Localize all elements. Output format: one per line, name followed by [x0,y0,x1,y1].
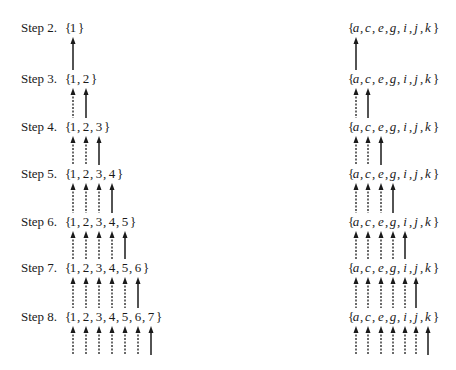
arrowhead-icon [84,326,89,333]
arrowhead-icon [414,326,419,333]
arrowhead-icon [366,326,371,333]
arrowhead-icon [84,183,89,190]
arrowhead-icon [97,183,102,190]
arrowhead-icon [354,326,359,333]
arrowhead-icon [379,326,384,333]
arrowhead-icon [123,231,128,238]
arrowhead-icon [391,183,396,190]
arrowhead-icon [84,231,89,238]
arrowhead-icon [379,231,384,238]
arrowhead-icon [391,277,396,284]
arrowhead-icon [136,326,141,333]
arrowhead-icon [71,136,76,143]
arrowhead-icon [414,277,419,284]
arrowhead-icon [354,88,359,95]
arrowhead-icon [379,277,384,284]
arrowhead-icon [110,183,115,190]
arrowhead-icon [366,277,371,284]
arrowhead-icon [71,231,76,238]
arrowhead-icon [403,231,408,238]
arrowhead-icon [97,231,102,238]
arrowhead-icon [84,277,89,284]
arrowhead-icon [391,326,396,333]
arrowhead-icon [354,136,359,143]
arrowhead-icon [71,326,76,333]
arrowhead-icon [123,326,128,333]
arrowhead-icon [366,136,371,143]
arrowhead-icon [366,231,371,238]
arrowhead-icon [403,326,408,333]
arrowhead-icon [366,183,371,190]
arrows-layer [0,0,456,370]
arrowhead-icon [110,326,115,333]
arrowhead-icon [71,277,76,284]
arrowhead-icon [97,326,102,333]
arrowhead-icon [149,326,154,333]
arrowhead-icon [71,37,76,44]
arrowhead-icon [366,88,371,95]
arrowhead-icon [426,326,431,333]
arrowhead-icon [391,231,396,238]
arrowhead-icon [136,277,141,284]
arrowhead-icon [71,183,76,190]
arrowhead-icon [403,277,408,284]
arrowhead-icon [84,136,89,143]
arrowhead-icon [97,277,102,284]
arrowhead-icon [97,136,102,143]
arrowhead-icon [123,277,128,284]
arrowhead-icon [110,277,115,284]
arrowhead-icon [84,88,89,95]
arrowhead-icon [354,183,359,190]
arrowhead-icon [379,136,384,143]
arrowhead-icon [110,231,115,238]
arrowhead-icon [379,183,384,190]
arrowhead-icon [354,37,359,44]
arrowhead-icon [354,277,359,284]
arrowhead-icon [354,231,359,238]
arrowhead-icon [71,88,76,95]
